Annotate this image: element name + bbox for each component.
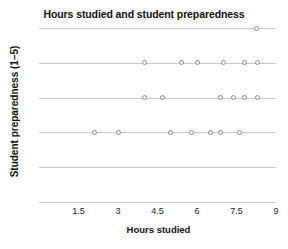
data-point: [168, 130, 173, 135]
plot-area: 5432101.534.567.59: [39, 28, 276, 202]
y-axis-label: Student preparedness (1–5): [9, 22, 20, 202]
gridline-y-1: [39, 167, 276, 168]
data-point: [189, 130, 194, 135]
data-point: [242, 60, 247, 65]
data-point: [116, 130, 121, 135]
data-point: [242, 95, 247, 100]
data-point: [221, 60, 226, 65]
gridline-y-5: [39, 28, 276, 29]
data-point: [254, 26, 259, 31]
chart-title: Hours studied and student preparedness: [0, 8, 288, 20]
x-axis-label: Hours studied: [39, 224, 278, 235]
x-axis-tick-1.5: 1.5: [72, 206, 85, 216]
data-point: [231, 95, 236, 100]
x-axis-tick-6: 6: [194, 206, 199, 216]
x-axis-tick-7.5: 7.5: [230, 206, 243, 216]
data-point: [218, 95, 223, 100]
data-point: [218, 130, 223, 135]
data-point: [142, 60, 147, 65]
data-point: [255, 60, 260, 65]
data-point: [142, 95, 147, 100]
x-axis-tick-4.5: 4.5: [151, 206, 164, 216]
gridline-y-0: [39, 202, 276, 203]
data-point: [160, 95, 165, 100]
data-point: [92, 130, 97, 135]
data-point: [208, 130, 213, 135]
data-point: [179, 60, 184, 65]
x-axis-tick-3: 3: [115, 206, 120, 216]
data-point: [237, 130, 242, 135]
data-point: [255, 95, 260, 100]
gridline-y-3: [39, 98, 276, 99]
scatter-chart: Hours studied and student preparedness S…: [0, 0, 288, 249]
data-point: [195, 60, 200, 65]
gridline-y-4: [39, 63, 276, 64]
x-axis-tick-9: 9: [273, 206, 278, 216]
